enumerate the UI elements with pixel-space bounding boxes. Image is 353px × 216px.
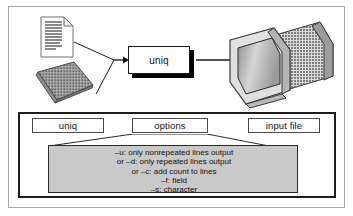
options-detail-box: –u: only nonrepeated lines output or –d:…: [48, 145, 298, 193]
document-icon: [40, 16, 74, 58]
syntax-token-row: uniq options input file: [20, 118, 338, 135]
options-detail-line: or –c: add count to lines: [49, 167, 299, 176]
options-detail-line: –u: only nonrepeated lines output: [49, 148, 299, 157]
options-detail-line: or –d: only repeated lines output: [49, 157, 299, 166]
process-box-uniq: uniq: [128, 46, 190, 74]
syntax-token-command: uniq: [32, 118, 104, 133]
options-detail-line: –f: field: [49, 176, 299, 185]
options-detail-line: –s: character: [49, 185, 299, 194]
figure-uniq-diagram: uniq: [0, 0, 353, 216]
process-box-label: uniq: [128, 46, 190, 74]
keyboard-icon: [30, 58, 100, 108]
options-detail-list: –u: only nonrepeated lines output or –d:…: [49, 148, 299, 194]
syntax-token-options: options: [132, 118, 208, 133]
monitor-icon: [216, 14, 338, 108]
flow-diagram: uniq: [8, 6, 345, 110]
syntax-panel: uniq options input file –u: only nonrepe…: [18, 112, 336, 198]
syntax-token-input-file: input file: [248, 118, 320, 133]
